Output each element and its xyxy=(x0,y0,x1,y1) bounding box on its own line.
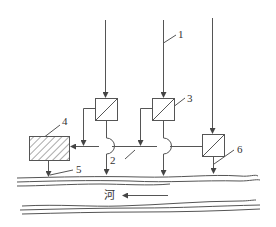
label-3: 3 xyxy=(187,92,193,104)
river-bank-top-2 xyxy=(17,180,260,182)
leader-5 xyxy=(50,170,73,175)
leader-2 xyxy=(125,150,135,159)
leader-1 xyxy=(164,35,177,43)
label-5: 5 xyxy=(76,163,82,175)
label-river: 河 xyxy=(104,189,115,201)
leader-4 xyxy=(45,125,60,137)
diagram-canvas: 1 3 4 2 5 6 河 xyxy=(0,0,276,227)
label-4: 4 xyxy=(62,115,68,127)
river-bank-top-1 xyxy=(17,175,258,178)
central-facility-4 xyxy=(30,137,70,161)
treatment-unit-a xyxy=(96,99,118,121)
treatment-unit-6 xyxy=(203,135,225,157)
river-bank-bottom-1 xyxy=(22,200,256,206)
river-bank-top-3 xyxy=(17,184,170,186)
label-6: 6 xyxy=(237,143,243,155)
label-1: 1 xyxy=(178,28,184,40)
label-2: 2 xyxy=(110,154,116,166)
treatment-unit-3 xyxy=(153,99,175,121)
bypass-branch-a xyxy=(84,109,96,146)
bypass-branch-b xyxy=(141,109,153,146)
outflow-b xyxy=(164,121,172,176)
leader-3 xyxy=(175,98,186,106)
river-bank-bottom-3 xyxy=(22,209,260,214)
